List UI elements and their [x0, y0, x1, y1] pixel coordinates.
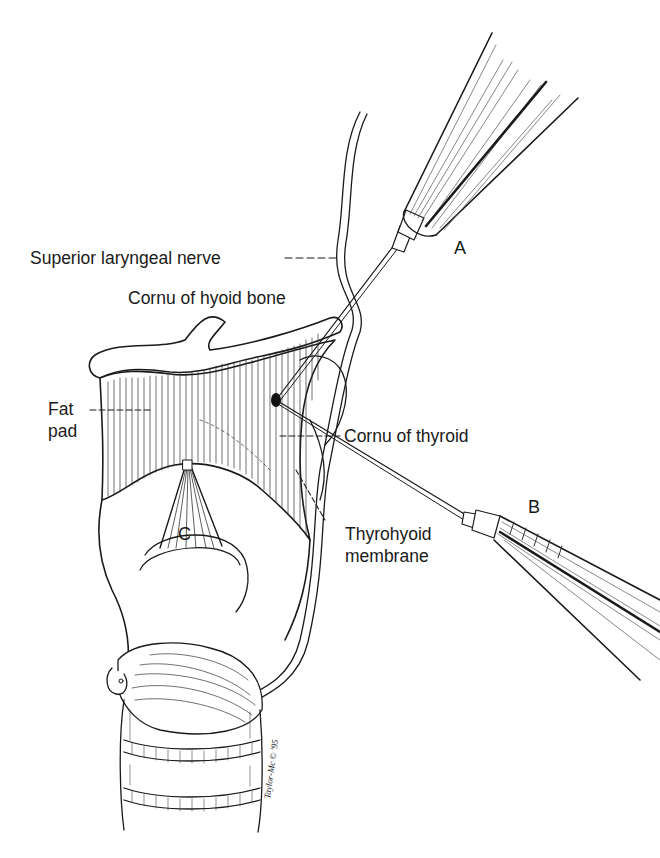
label-superior-laryngeal-nerve: Superior laryngeal nerve [30, 248, 221, 268]
needle-c [140, 460, 248, 612]
needle-label-a: A [454, 238, 466, 259]
cricothyroid-muscle [107, 643, 262, 734]
label-cornu-thyroid: Cornu of thyroid [344, 426, 469, 446]
label-cornu-hyoid-bone: Cornu of hyoid bone [128, 288, 286, 308]
label-fat-pad-line1: Fat [48, 399, 73, 419]
label-thyrohyoid-line2: membrane [345, 546, 429, 566]
label-fat-pad-line2: pad [48, 421, 77, 441]
needle-label-b: B [528, 497, 540, 518]
larynx-illustration [0, 0, 660, 858]
needle-label-c: C [178, 524, 191, 545]
label-thyrohyoid-line1: Thyrohyoid [345, 524, 432, 544]
thyroid-cartilage [99, 340, 335, 665]
needle-a [276, 33, 578, 402]
